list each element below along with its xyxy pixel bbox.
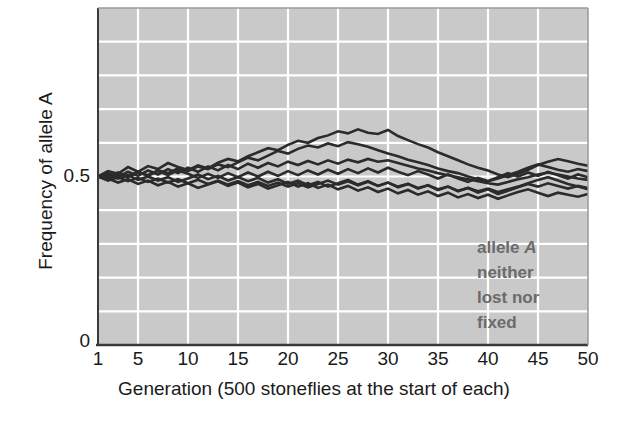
annotation-text: allele <box>477 238 524 257</box>
annotation-line-4: fixed <box>477 313 517 333</box>
x-tick-label-20: 20 <box>268 348 308 370</box>
annotation-allele-symbol: A <box>524 238 536 257</box>
x-tick-label-25: 25 <box>318 348 358 370</box>
x-tick-label-40: 40 <box>468 348 508 370</box>
x-axis-title: Generation (500 stoneflies at the start … <box>0 378 628 400</box>
x-tick-label-45: 45 <box>518 348 558 370</box>
x-tick-label-30: 30 <box>368 348 408 370</box>
chart-figure: Frequency of allele A Generation (500 st… <box>0 0 628 430</box>
x-tick-label-15: 15 <box>218 348 258 370</box>
y-tick-label-0.5: 0.5 <box>30 165 90 187</box>
x-tick-label-1: 1 <box>78 348 118 370</box>
x-tick-label-35: 35 <box>418 348 458 370</box>
x-tick-label-10: 10 <box>168 348 208 370</box>
annotation-line-3: lost nor <box>477 288 539 308</box>
x-tick-label-5: 5 <box>118 348 158 370</box>
x-tick-label-50: 50 <box>568 348 608 370</box>
annotation-line-2: neither <box>477 263 534 283</box>
annotation-line-1: allele A <box>477 238 537 258</box>
